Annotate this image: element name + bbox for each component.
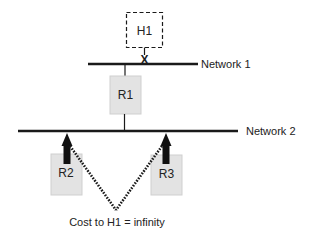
router-r2: R2 (51, 133, 82, 195)
host-h1-label: H1 (137, 24, 153, 38)
network-1: Network 1 (88, 58, 251, 70)
router-r1-label: R1 (118, 88, 134, 102)
router-r3: R3 (151, 133, 182, 195)
caption: Cost to H1 = infinity (69, 216, 165, 228)
router-r3-label: R3 (159, 167, 175, 181)
network-1-label: Network 1 (201, 58, 251, 70)
network-2: Network 2 (18, 125, 296, 137)
host-h1: H1 (127, 13, 163, 48)
router-r1: R1 (110, 64, 141, 131)
router-r2-label: R2 (58, 166, 74, 180)
network-diagram: H1 X Network 1 R1 Network 2 R2 R3 (0, 0, 314, 241)
network-2-label: Network 2 (246, 125, 296, 137)
routing-update-path (70, 146, 162, 210)
